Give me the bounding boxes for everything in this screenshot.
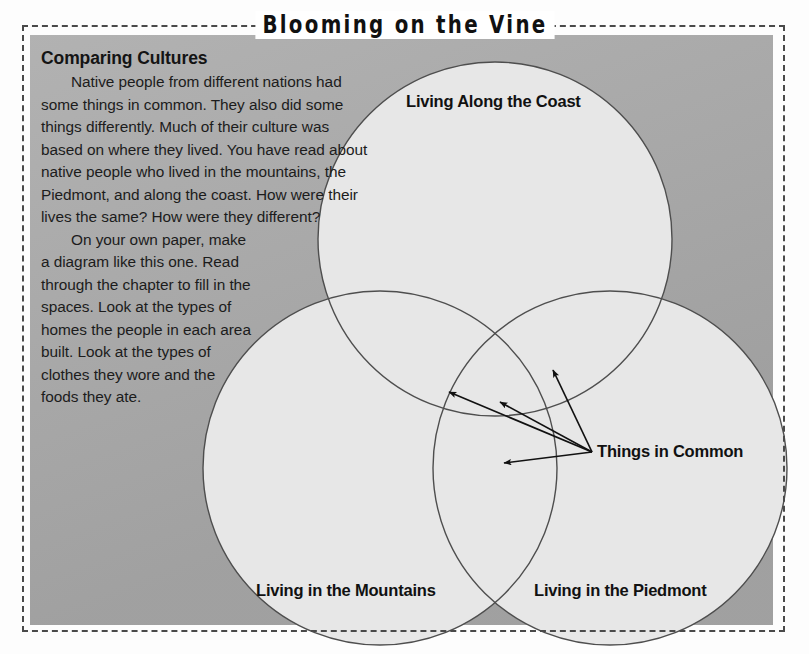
article-text-column: Comparing Cultures Native people from di…	[41, 48, 371, 409]
venn-label-coast: Living Along the Coast	[406, 92, 581, 111]
title-bar: Blooming on the Vine	[0, 11, 809, 39]
venn-label-piedmont: Living in the Piedmont	[534, 581, 707, 600]
venn-label-things-in-common: Things in Common	[597, 442, 743, 461]
article-paragraph-2: On your own paper, make a diagram like t…	[41, 229, 253, 409]
article-heading: Comparing Cultures	[41, 48, 371, 69]
article-paragraph-1: Native people from different nations had…	[41, 71, 371, 229]
venn-label-mountains: Living in the Mountains	[256, 581, 436, 600]
page-title: Blooming on the Vine	[255, 11, 554, 39]
worksheet-page: Blooming on the Vine Comparing Cultures …	[0, 0, 809, 654]
